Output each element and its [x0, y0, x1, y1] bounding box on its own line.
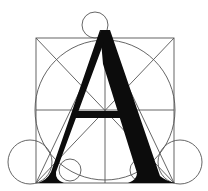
left-outer-circle [8, 140, 52, 184]
construction-canvas [0, 0, 208, 191]
right-outer-circle [158, 140, 202, 184]
letter-a-glyph [38, 30, 175, 183]
letter-construction-diagram: Geometric construction of the letter A [0, 0, 208, 191]
left-inner-circle [59, 159, 81, 181]
